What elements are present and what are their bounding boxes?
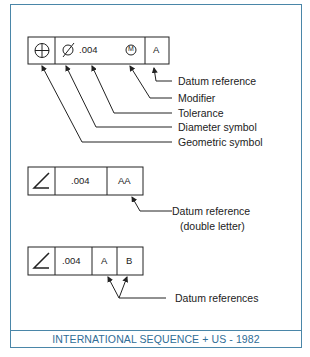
label-modifier: Modifier	[178, 92, 215, 104]
label-datum-reference: Datum reference	[178, 75, 256, 87]
label-datum-reference-2b: (double letter)	[180, 220, 245, 232]
label-datum-reference-2a: Datum reference	[172, 205, 250, 217]
datum-letter-3b: B	[126, 255, 132, 266]
label-geometric-symbol: Geometric symbol	[178, 136, 263, 148]
footer-caption: INTERNATIONAL SEQUENCE + US - 1982	[10, 330, 302, 348]
tolerance-value-3: .004	[62, 255, 81, 266]
datum-letter: A	[153, 44, 159, 55]
label-diameter-symbol: Diameter symbol	[178, 121, 257, 133]
label-tolerance: Tolerance	[178, 107, 224, 119]
datum-letters-2: AA	[118, 175, 131, 186]
tolerance-value: .004	[79, 44, 98, 55]
label-datum-references: Datum references	[175, 292, 258, 304]
modifier-symbol: M	[128, 45, 134, 52]
tolerance-value-2: .004	[71, 175, 90, 186]
datum-letter-3a: A	[101, 255, 107, 266]
